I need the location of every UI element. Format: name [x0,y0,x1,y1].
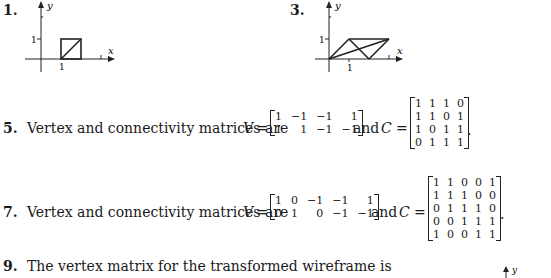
y-axis-arrow-icon [38,1,44,8]
problem-number: 9. [3,258,18,274]
x-axis-label: x [397,45,403,56]
equals-sign: = [414,204,426,220]
y-axis-label: y [334,0,341,11]
and-text: and [353,120,379,136]
connectivity-matrix: 1110 1101 1011 0111 [410,97,469,149]
v-label: V [243,120,253,136]
end-punct: . [467,122,471,138]
x-tick-label: 1 [347,63,353,73]
figure-1-plot: y x 1 1 [20,0,130,75]
problem-number: 5. [3,120,18,136]
problem-number: 7. [3,204,18,220]
equals-sign: = [256,204,268,220]
end-punct: . [500,206,504,222]
problem-number: 3. [290,2,305,18]
vertex-matrix: 10−1−11 010−1−1 [270,194,379,220]
y-axis-label: y [511,265,518,275]
and-text: and [371,204,397,220]
v-label: V [243,204,253,220]
figure-3-plot: y x 1 1 [310,0,420,75]
problem-number: 1. [3,2,18,18]
equals-sign: = [256,120,268,136]
wireframe [61,39,81,59]
y-tick-label: 1 [31,35,37,45]
x-tick-label: 1 [59,62,65,72]
wireframe [329,39,389,59]
x-axis-label: x [108,45,114,56]
figure-9-plot: y [500,262,530,278]
x-axis-arrow-icon [108,56,115,62]
y-axis-arrow-icon [326,1,332,8]
vertex-matrix: 1−1−11 11−1−1 [270,110,363,136]
equals-sign: = [396,120,408,136]
connectivity-matrix: 11001 11100 01110 00111 10011 [428,176,501,241]
c-label: C [381,120,392,136]
y-tick-label: 1 [319,35,325,45]
x-axis-arrow-icon [396,56,403,62]
c-label: C [399,204,410,220]
problem-text: The vertex matrix for the transformed wi… [27,258,392,274]
y-axis-label: y [46,0,53,11]
